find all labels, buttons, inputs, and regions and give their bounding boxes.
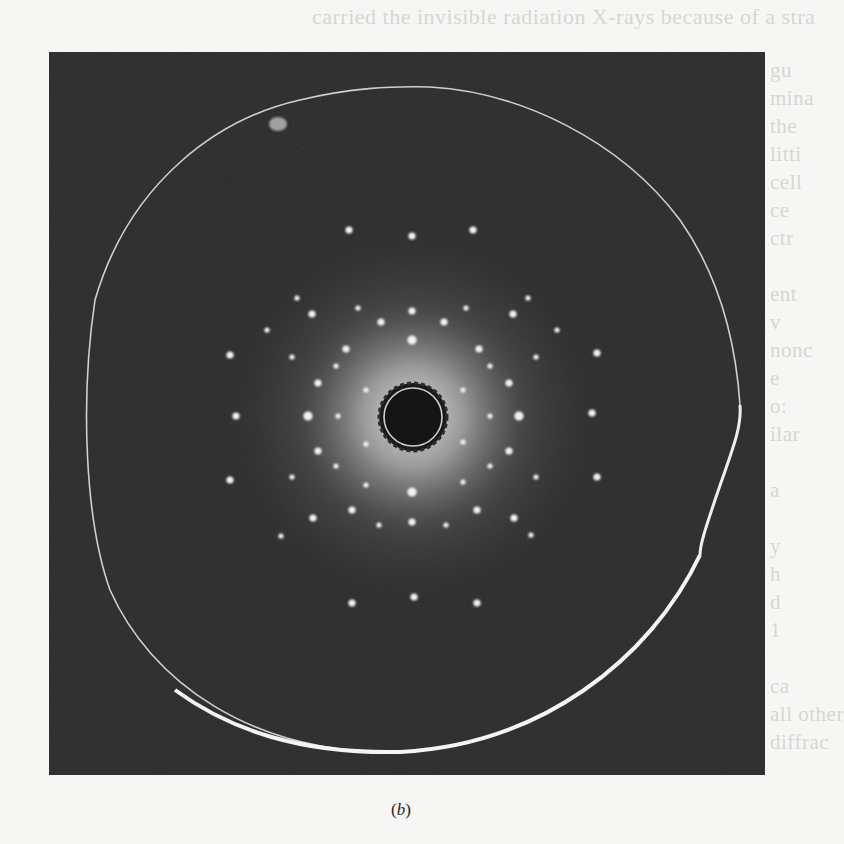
diffraction-spot — [469, 226, 476, 233]
diffraction-spot — [377, 318, 384, 325]
caption-close-paren: ) — [405, 800, 411, 819]
diffraction-spot — [308, 310, 315, 317]
diffraction-spot — [554, 327, 559, 332]
diffraction-spot — [363, 387, 368, 392]
bleed-through-line: gu — [770, 58, 802, 83]
bleed-through-line: all other — [770, 702, 802, 727]
bleed-through-line: h — [770, 562, 802, 587]
diffraction-spot — [363, 482, 368, 487]
diffraction-spot — [463, 305, 468, 310]
bleed-through-line: a — [770, 478, 802, 503]
diffraction-spot — [278, 533, 283, 538]
diffraction-spot — [408, 232, 415, 239]
diffraction-spot — [440, 318, 447, 325]
laue-diffraction-photograph — [49, 52, 765, 775]
caption-letter: b — [397, 800, 406, 819]
diffraction-spot — [509, 310, 516, 317]
diffraction-spot — [333, 363, 338, 368]
figure-caption: (b) — [0, 800, 802, 820]
diffraction-spot — [473, 506, 480, 513]
bleed-through-line: e — [770, 366, 802, 391]
diffraction-spot — [533, 354, 538, 359]
bleed-through-line: ce — [770, 198, 802, 223]
diffraction-spot — [408, 518, 415, 525]
diffraction-spot — [289, 474, 294, 479]
bleed-through-line: ctr — [770, 226, 802, 251]
diffraction-spot — [342, 345, 349, 352]
bleed-through-line: diffrac — [770, 730, 802, 755]
diffraction-spot — [514, 411, 523, 420]
bleed-through-line: v — [770, 310, 802, 335]
diffraction-spot — [363, 441, 368, 446]
diffraction-spot — [473, 599, 480, 606]
bleed-through-top-text: carried the invisible radiation X-rays b… — [312, 4, 815, 30]
diffraction-spot — [264, 327, 269, 332]
diffraction-spot — [593, 349, 600, 356]
bleed-through-line: ent — [770, 282, 802, 307]
bleed-through-line: litti — [770, 142, 802, 167]
bleed-through-line: ca — [770, 674, 802, 699]
diffraction-spot — [309, 514, 316, 521]
diffraction-spot — [407, 487, 416, 496]
diffraction-spot — [335, 413, 340, 418]
diffraction-spot — [460, 439, 465, 444]
diffraction-spot — [408, 307, 415, 314]
bleed-through-line: 1 — [770, 618, 802, 643]
bleed-through-line: d — [770, 590, 802, 615]
diffraction-spot — [348, 506, 355, 513]
diffraction-spot — [588, 409, 595, 416]
diffraction-spot — [487, 363, 492, 368]
diffraction-spot — [533, 474, 538, 479]
diffraction-spot — [407, 335, 416, 344]
beam-stop — [379, 383, 447, 451]
diffraction-spot — [525, 295, 530, 300]
diffraction-spot — [355, 305, 360, 310]
diffraction-spot — [593, 473, 600, 480]
diffraction-spot — [443, 522, 448, 527]
bleed-through-line: the — [770, 114, 802, 139]
diffraction-spot — [314, 447, 321, 454]
diffraction-pattern-graphic — [49, 52, 765, 775]
diffraction-spot — [376, 522, 381, 527]
diffraction-spot — [460, 387, 465, 392]
diffraction-spot — [289, 354, 294, 359]
diffraction-spot — [232, 412, 239, 419]
diffraction-spot — [348, 599, 355, 606]
diffraction-spot — [487, 413, 492, 418]
diffraction-spot — [475, 345, 482, 352]
diffraction-spot — [505, 447, 512, 454]
diffraction-spot — [528, 532, 533, 537]
diffraction-spot — [505, 379, 512, 386]
diffraction-spot — [333, 463, 338, 468]
diffraction-spot — [510, 514, 517, 521]
bleed-through-line: o: — [770, 394, 802, 419]
diffraction-spot — [303, 411, 312, 420]
diffraction-spot — [294, 295, 299, 300]
diffraction-spot — [226, 351, 233, 358]
diffraction-spot — [314, 379, 321, 386]
diffraction-spot — [460, 479, 465, 484]
diffraction-spot — [487, 463, 492, 468]
bleed-through-line: nonc — [770, 338, 802, 363]
bleed-through-line: cell — [770, 170, 802, 195]
bleed-through-line: y — [770, 534, 802, 559]
diffraction-spot — [226, 476, 233, 483]
film-smudge — [269, 117, 287, 131]
diffraction-spot — [345, 226, 352, 233]
bleed-through-line: ilar — [770, 422, 802, 447]
bleed-through-line: mina — [770, 86, 802, 111]
diffraction-spot — [410, 593, 417, 600]
